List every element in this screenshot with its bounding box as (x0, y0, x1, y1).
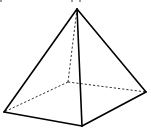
clipped-label-marks (1, 0, 80, 2)
edge-front_bottom-right (82, 92, 146, 126)
pyramid-figure (0, 0, 151, 135)
hidden-edges (4, 9, 146, 112)
edge-apex-front_left (4, 9, 77, 112)
edge-front_left-front_bottom (4, 112, 82, 126)
edge-apex-right (77, 9, 146, 92)
edge-apex-front_bottom (77, 9, 82, 126)
pyramid-diagram (0, 0, 151, 135)
hidden-edge-back-front_left (4, 82, 68, 112)
